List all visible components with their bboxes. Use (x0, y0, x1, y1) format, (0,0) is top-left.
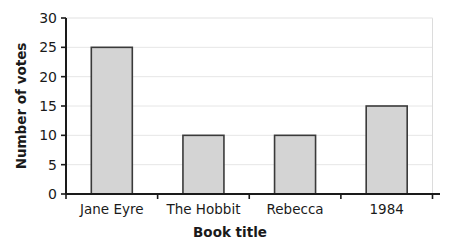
x-axis-category-label: Jane Eyre (79, 201, 144, 217)
y-axis-tick-label: 25 (39, 39, 57, 55)
x-axis-category-label: 1984 (370, 201, 404, 217)
y-axis-tick-label: 20 (39, 69, 57, 85)
x-axis-title: Book title (193, 224, 267, 240)
bar (91, 47, 132, 194)
chart-canvas: 051015202530 Jane EyreThe HobbitRebecca1… (0, 0, 453, 244)
x-axis-category-label: Rebecca (267, 201, 324, 217)
y-axis-tick-label: 15 (39, 98, 57, 114)
y-axis-tick-label: 0 (48, 186, 57, 202)
y-axis-tick-label: 30 (39, 10, 57, 26)
bar (275, 135, 316, 194)
y-axis-title: Number of votes (13, 43, 29, 170)
y-axis-tick-label: 10 (39, 127, 57, 143)
x-axis-category-label: The Hobbit (165, 201, 240, 217)
bar (366, 106, 407, 194)
bar-chart: 051015202530 Jane EyreThe HobbitRebecca1… (0, 0, 453, 244)
bar (183, 135, 224, 194)
y-axis-tick-label: 5 (48, 157, 57, 173)
